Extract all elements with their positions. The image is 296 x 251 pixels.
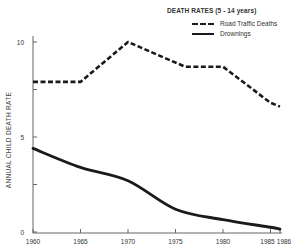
x-tick-label: 1980 — [216, 238, 231, 245]
x-tick-label: 1986 — [277, 238, 292, 245]
x-tick-label: 1985 — [260, 238, 275, 245]
road-traffic-deaths-line — [33, 42, 280, 107]
legend-label: Drownings — [220, 30, 251, 37]
x-tick-label: 1960 — [26, 238, 41, 245]
solid-line-swatch-icon — [192, 33, 214, 35]
y-ticks: 0510 — [17, 39, 37, 236]
legend-item-drownings: Drownings — [192, 29, 251, 38]
x-tick-label: 1965 — [73, 238, 88, 245]
legend-item-road-traffic: Road Traffic Deaths — [192, 19, 277, 28]
dashed-line-swatch-icon — [192, 23, 214, 25]
x-tick-label: 1970 — [121, 238, 136, 245]
y-tick-label: 10 — [17, 39, 25, 46]
x-tick-label: 1975 — [168, 238, 183, 245]
x-ticks: 1960196519701975198019851986 — [26, 229, 292, 245]
legend-label: Road Traffic Deaths — [220, 20, 277, 27]
drownings-line — [33, 148, 280, 229]
y-axis-label: ANNUAL CHILD DEATH RATE — [5, 91, 12, 188]
y-tick-label: 0 — [20, 229, 24, 236]
y-tick-label: 5 — [20, 134, 24, 141]
line-chart: 0510 1960196519701975198019851986 ANNUAL… — [0, 0, 296, 251]
legend-title: DEATH RATES (5 - 14 years) — [167, 7, 256, 14]
